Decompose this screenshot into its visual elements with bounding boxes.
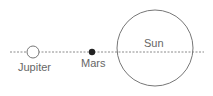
mars-label: Mars — [81, 58, 105, 69]
planet-alignment-diagram — [0, 0, 213, 96]
sun-label: Sun — [144, 38, 164, 49]
jupiter-label: Jupiter — [18, 62, 51, 73]
jupiter-circle — [27, 46, 39, 58]
mars-dot — [89, 49, 95, 55]
